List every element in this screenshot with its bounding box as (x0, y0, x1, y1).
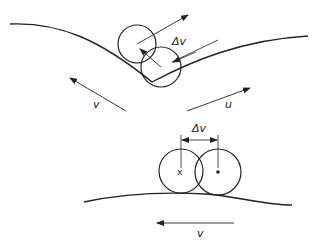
x-marker: x (177, 167, 183, 177)
velocity-label-v-bottom: v (197, 227, 204, 240)
top-panel: Δv v u (10, 15, 308, 111)
velocity-label-u: u (225, 98, 232, 111)
valley-surface (10, 24, 308, 82)
convex-surface (84, 193, 292, 205)
velocity-arrow-u (187, 88, 250, 111)
velocity-label-v-top: v (93, 98, 100, 111)
delta-v-label-bottom: Δv (191, 122, 207, 135)
dot-marker (216, 170, 220, 174)
delta-v-label-top: Δv (171, 35, 187, 48)
bottom-panel: x Δv v (84, 122, 292, 240)
diagram-canvas: Δv v u x Δv v (0, 0, 321, 249)
